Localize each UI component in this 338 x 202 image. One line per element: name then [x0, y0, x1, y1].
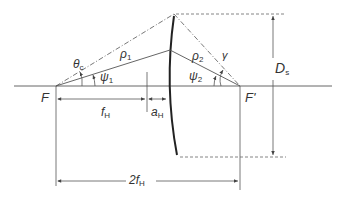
ellipsoidal-mirror-diagram: F F' θc ρ1 ψ1 ρ2 ψ2 γ Ds fH aH 2fH — [0, 0, 338, 202]
focus-left-label: F — [41, 91, 49, 104]
rho2-label: ρ2 — [192, 50, 203, 64]
aH-label: aH — [151, 106, 163, 120]
marginal-ray-reflected — [174, 14, 240, 86]
theta-arc — [80, 72, 82, 86]
gamma-arc — [220, 70, 223, 86]
diagram-canvas — [0, 0, 338, 202]
psi2-label: ψ2 — [189, 70, 202, 84]
2fH-label: 2fH — [129, 174, 145, 188]
ds-label: Ds — [275, 61, 289, 77]
mirror-surface — [170, 16, 177, 155]
ray-rho2 — [170, 50, 240, 86]
psi1-arc — [93, 75, 95, 86]
gamma-label: γ — [222, 50, 228, 61]
psi2-arc — [214, 76, 216, 86]
marginal-ray-incident — [56, 14, 174, 86]
theta-c-label: θc — [73, 58, 84, 72]
fH-label: fH — [101, 106, 110, 120]
psi1-label: ψ1 — [100, 71, 113, 85]
focus-right-label: F' — [245, 91, 255, 104]
rho1-label: ρ1 — [120, 48, 131, 62]
